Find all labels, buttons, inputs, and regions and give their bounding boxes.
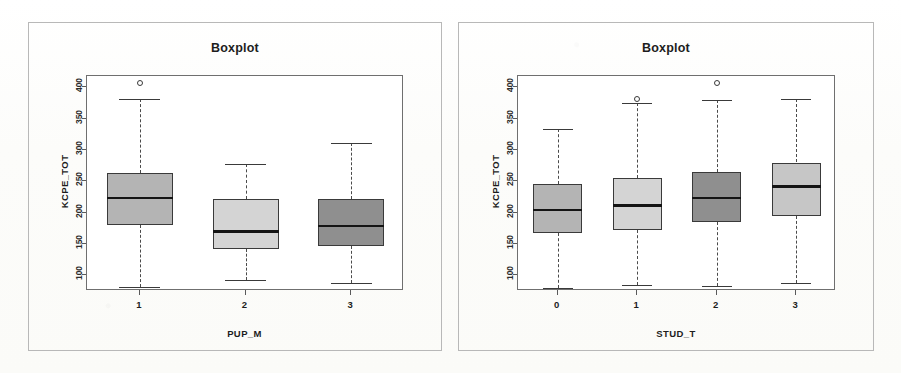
x-axis-left: 123 [86, 290, 403, 320]
plot-region-left [86, 75, 403, 290]
y-axis-tick-label: 100 [505, 266, 515, 280]
y-axis-tick-label-text: 200 [74, 204, 84, 218]
whisker-lower-cap [781, 283, 811, 284]
y-axis-tick-label: 400 [74, 78, 84, 92]
x-axis-label-right: STUD_T [656, 328, 695, 339]
boxplot-iqr-box [318, 199, 384, 245]
y-axis-tick-label: 400 [505, 78, 515, 92]
whisker-upper-line [796, 99, 797, 162]
y-axis-tick-label-text: 350 [505, 110, 515, 124]
y-axis-tick-label: 350 [505, 110, 515, 124]
y-axis-tick-label-text: 150 [74, 235, 84, 249]
x-axis-tick [350, 290, 351, 295]
box-series-right [518, 76, 834, 289]
y-axis-tick-label-text: 150 [505, 235, 515, 249]
y-axis-tick-label-text: 400 [74, 78, 84, 92]
y-axis-tick-label: 150 [505, 235, 515, 249]
y-axis-tick-label-text: 100 [505, 266, 515, 280]
x-axis-tick-label: 1 [136, 299, 141, 310]
x-axis-tick-label: 2 [713, 299, 718, 310]
y-axis-tick-label-text: 400 [505, 78, 515, 92]
x-axis-right: 0123 [517, 290, 835, 320]
y-axis-tick-label: 250 [505, 172, 515, 186]
y-axis-tick-label-text: 300 [505, 141, 515, 155]
y-axis-tick-label-text: 350 [74, 110, 84, 124]
y-axis-tick-label: 250 [74, 172, 84, 186]
y-axis-tick-label: 100 [74, 266, 84, 280]
x-axis-tick [636, 290, 637, 295]
x-axis-tick [795, 290, 796, 295]
whisker-upper-cap [781, 99, 811, 100]
x-axis-tick-label: 0 [554, 299, 559, 310]
x-axis-tick [716, 290, 717, 295]
y-axis-tick-label: 200 [74, 204, 84, 218]
x-axis-label-left: PUP_M [227, 328, 262, 339]
y-axis-tick-label: 300 [74, 141, 84, 155]
boxplot-box-group [518, 76, 834, 289]
y-axis-tick-label: 200 [505, 204, 515, 218]
boxplot-iqr-box [772, 163, 821, 216]
boxplot-median-line [772, 185, 821, 188]
panel-title-left: Boxplot [29, 41, 441, 55]
y-axis-tick-label: 350 [74, 110, 84, 124]
whisker-lower-line [796, 216, 797, 283]
plot-region-right [517, 75, 835, 290]
whisker-lower-line [351, 246, 352, 283]
box-series-left [87, 76, 402, 289]
whisker-upper-cap [331, 143, 372, 144]
x-axis-tick-label: 2 [242, 299, 247, 310]
x-axis-tick [557, 290, 558, 295]
y-axis-tick-label-text: 100 [74, 266, 84, 280]
y-axis-tick-label-text: 250 [74, 172, 84, 186]
x-axis-tick [245, 290, 246, 295]
panel-title-right: Boxplot [459, 41, 873, 55]
boxplot-panel-right: Boxplot KCPE_TOT 100150200250300350400 0… [458, 22, 874, 351]
whisker-lower-cap [331, 283, 372, 284]
y-axis-label-left: KCPE_TOT [59, 151, 70, 211]
whisker-upper-line [351, 143, 352, 199]
x-axis-tick-label: 3 [348, 299, 353, 310]
y-axis-tick-label-text: 250 [505, 172, 515, 186]
y-axis-tick-label: 300 [505, 141, 515, 155]
y-axis-tick-label-text: 200 [505, 204, 515, 218]
boxplot-median-line [318, 225, 384, 228]
y-axis-tick-label: 150 [74, 235, 84, 249]
boxplot-panel-left: Boxplot KCPE_TOT 100150200250300350400 1… [28, 22, 442, 351]
x-axis-tick [139, 290, 140, 295]
y-axis-tick-label-text: 300 [74, 141, 84, 155]
y-axis-label-right: KCPE_TOT [490, 151, 501, 211]
boxplot-figure: Boxplot KCPE_TOT 100150200250300350400 1… [0, 0, 901, 373]
boxplot-box-group [87, 76, 402, 289]
x-axis-tick-label: 1 [634, 299, 639, 310]
x-axis-tick-label: 3 [793, 299, 798, 310]
